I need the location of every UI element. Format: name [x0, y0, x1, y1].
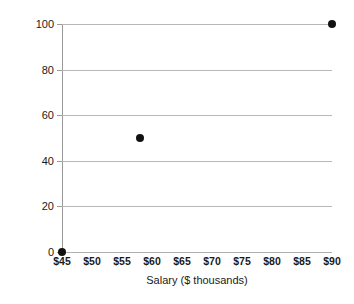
data-point — [136, 134, 144, 142]
x-tick-label: $50 — [83, 255, 101, 267]
scatter-chart: Utility 020406080100 $45$50$55$60$65$70$… — [0, 0, 354, 304]
y-tick-label: 40 — [24, 155, 54, 167]
x-tick-label: $45 — [53, 255, 71, 267]
y-tick-mark — [57, 161, 62, 162]
x-axis-title: Salary ($ thousands) — [62, 274, 332, 286]
gridline — [62, 252, 332, 253]
y-tick-label: 0 — [24, 246, 54, 258]
x-tick-label: $55 — [113, 255, 131, 267]
x-tick-label: $65 — [173, 255, 191, 267]
y-tick-mark — [57, 206, 62, 207]
y-tick-label: 20 — [24, 200, 54, 212]
y-tick-label: 80 — [24, 64, 54, 76]
x-tick-label: $60 — [143, 255, 161, 267]
x-tick-label: $85 — [293, 255, 311, 267]
data-point — [328, 20, 336, 28]
y-tick-mark — [57, 70, 62, 71]
x-axis-tick-labels: $45$50$55$60$65$70$75$80$85$90 — [62, 255, 332, 271]
gridline — [62, 24, 332, 25]
x-tick-label: $70 — [203, 255, 221, 267]
x-tick-label: $75 — [233, 255, 251, 267]
gridline — [62, 206, 332, 207]
y-tick-label: 100 — [24, 18, 54, 30]
y-tick-label: 60 — [24, 109, 54, 121]
y-tick-mark — [57, 24, 62, 25]
plot-area — [62, 24, 332, 252]
x-tick-label: $90 — [323, 255, 341, 267]
gridline — [62, 70, 332, 71]
x-tick-label: $80 — [263, 255, 281, 267]
y-tick-mark — [57, 115, 62, 116]
y-axis-line — [62, 24, 63, 252]
gridline — [62, 115, 332, 116]
gridline — [62, 161, 332, 162]
